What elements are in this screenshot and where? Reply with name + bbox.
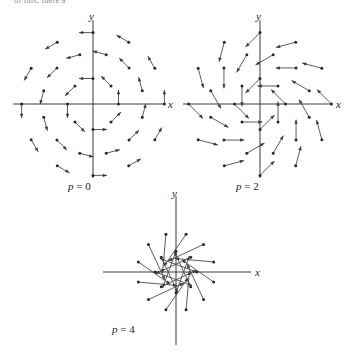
vector-arrowhead <box>292 81 296 85</box>
vector-tail-dot <box>259 128 262 131</box>
vector-field-panel-p2: x y p = 2 <box>180 12 348 192</box>
vector-tail-dot <box>164 233 167 236</box>
vector-tail-dot <box>78 53 81 56</box>
vector-tail-dot <box>137 260 140 263</box>
vector-tail-dot <box>284 103 287 106</box>
vector-arrowhead <box>213 142 218 145</box>
vector-tail-dot <box>110 121 113 124</box>
vector-tail-dot <box>189 256 192 259</box>
vector-tail-dot <box>295 139 298 142</box>
vector-tail-dot <box>92 128 95 131</box>
vector-shaft <box>138 282 177 285</box>
vector-field-panel-p4: x y p = 4 <box>88 190 268 355</box>
caption-value: 4 <box>129 323 135 335</box>
vector-arrowhead <box>224 124 228 128</box>
vector-arrowhead <box>256 61 260 65</box>
vector-tail-dot <box>92 174 95 177</box>
vector-tail-dot <box>163 103 166 106</box>
vector-arrowhead <box>302 62 307 65</box>
vector-tail-dot <box>295 66 298 69</box>
vector-tail-dot <box>160 285 163 288</box>
vector-arrowhead <box>201 84 204 88</box>
vector-tail-dot <box>212 260 215 263</box>
vector-tail-dot <box>240 84 243 87</box>
vector-arrowhead <box>138 77 141 82</box>
vector-tail-dot <box>189 285 192 288</box>
vector-tail-dot <box>128 139 131 142</box>
vector-arrowhead <box>103 174 107 177</box>
vector-tail-dot <box>164 308 167 311</box>
vector-field-plot-p4: x y p = 4 <box>88 190 268 355</box>
vector-tail-dot <box>20 103 23 106</box>
vector-field-plot-p0: x y p = 0 <box>6 12 178 192</box>
vector-arrowhead <box>316 120 319 124</box>
vector-tail-dot <box>259 174 262 177</box>
vector-tail-dot <box>141 89 144 92</box>
vector-tail-dot <box>202 298 205 301</box>
vector-shaft <box>186 271 189 310</box>
vector-tail-dot <box>330 103 333 106</box>
vector-tail-dot <box>73 84 76 87</box>
vector-arrowhead <box>280 136 284 140</box>
vector-tail-dot <box>110 84 113 87</box>
vector-tail-dot <box>212 281 215 284</box>
vector-tail-dot <box>277 84 280 87</box>
vector-tail-dot <box>153 67 156 70</box>
vector-arrowhead <box>237 68 241 72</box>
vector-tail-dot <box>153 138 156 141</box>
vector-tail-dot <box>185 233 188 236</box>
vector-arrowhead <box>217 104 221 108</box>
vector-arrowhead <box>45 46 49 50</box>
vector-arrowhead <box>148 56 152 60</box>
vector-tail-dot <box>147 243 150 246</box>
vector-arrowhead <box>117 90 120 94</box>
vector-tail-dot <box>56 41 59 44</box>
vector-tail-dot <box>127 164 130 167</box>
vector-tail-dot <box>42 116 45 119</box>
vector-tail-dot <box>117 103 120 106</box>
vector-shaft <box>163 234 166 273</box>
vector-tail-dot <box>128 66 131 69</box>
vector-tail-dot <box>56 164 59 167</box>
figure-root: of this, there a x y p = 0 x y p = <box>0 0 348 357</box>
vector-tail-dot <box>240 121 243 124</box>
vector-tail-dot <box>209 89 212 92</box>
y-axis-label: y <box>88 10 94 22</box>
vector-tail-dot <box>73 121 76 124</box>
vector-shaft <box>175 259 214 262</box>
vector-arrowhead <box>20 114 23 118</box>
vector-tail-dot <box>209 116 212 119</box>
vector-arrowhead <box>276 66 280 69</box>
vector-arrowhead <box>35 147 39 151</box>
vector-arrowhead <box>294 120 297 124</box>
vector-tail-dot <box>197 67 200 70</box>
panel-caption-p4: p = 4 <box>111 323 135 335</box>
vector-tail-dot <box>160 256 163 259</box>
y-axis-label: y <box>255 10 261 22</box>
vector-tail-dot <box>294 164 297 167</box>
vector-tail-dot <box>141 116 144 119</box>
vector-tail-dot <box>272 53 275 56</box>
vector-arrowhead <box>240 138 244 141</box>
vector-arrowhead <box>299 100 303 104</box>
vector-tail-dot <box>308 116 311 119</box>
y-axis-label: y <box>171 187 177 199</box>
vector-arrowhead <box>298 146 301 151</box>
vector-tail-dot <box>137 281 140 284</box>
vector-arrowhead <box>79 77 83 80</box>
vector-arrowhead <box>24 76 28 80</box>
vector-arrowhead <box>115 149 120 152</box>
vector-field-plot-p2: x y p = 2 <box>180 12 348 192</box>
vector-arrowhead <box>276 45 280 48</box>
vector-arrowhead <box>66 114 69 118</box>
vector-field-panel-p0: x y p = 0 <box>6 12 178 192</box>
vector-tail-dot <box>223 164 226 167</box>
vector-tail-dot <box>66 103 69 106</box>
vector-tail-dot <box>147 298 150 301</box>
vector-arrowhead <box>79 31 83 34</box>
vector-arrowhead <box>66 56 71 59</box>
vector-arrowhead <box>240 160 244 163</box>
vector-tail-dot <box>320 67 323 70</box>
vector-tail-dot <box>277 121 280 124</box>
vector-tail-dot <box>105 152 108 155</box>
